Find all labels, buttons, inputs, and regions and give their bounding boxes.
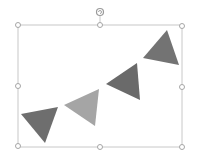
pennant-triangle-3 [106,63,140,100]
resize-handle-bottom-center[interactable] [98,145,103,150]
resize-handle-middle-left[interactable] [16,84,21,89]
slide-canvas [0,0,197,158]
pennant-triangle-2 [64,89,99,126]
resize-handle-top-right[interactable] [180,24,185,29]
rotation-handle[interactable] [97,9,104,16]
resize-handle-bottom-right[interactable] [180,145,185,150]
pennant-triangle-4 [143,30,179,65]
resize-handle-top-center[interactable] [98,23,103,28]
resize-handle-top-left[interactable] [16,23,21,28]
pennant-triangle-1 [21,107,58,143]
bunting-shape[interactable] [21,30,179,143]
resize-handle-bottom-left[interactable] [16,144,21,149]
resize-handle-middle-right[interactable] [180,85,185,90]
